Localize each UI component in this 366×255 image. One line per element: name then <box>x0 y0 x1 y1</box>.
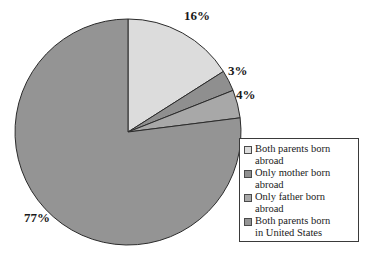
slice-label-77: 77% <box>24 210 50 226</box>
legend-item: Only mother born abroad <box>244 167 355 190</box>
legend-label: Only mother born abroad <box>255 167 330 190</box>
slice-label-3: 3% <box>228 63 248 79</box>
legend-label: Only father born abroad <box>255 191 325 214</box>
legend-label: Both parents born in United States <box>255 215 330 238</box>
legend-item: Both parents born abroad <box>244 143 355 166</box>
legend-item: Only father born abroad <box>244 191 355 214</box>
legend-swatch-both-parents-abroad <box>244 146 252 154</box>
legend-swatch-only-father-abroad <box>244 194 252 202</box>
legend-swatch-only-mother-abroad <box>244 170 252 178</box>
pie-chart-figure: 16% 3% 4% 77% Both parents born abroad O… <box>0 0 366 255</box>
legend-label: Both parents born abroad <box>255 143 330 166</box>
chart-legend: Both parents born abroad Only mother bor… <box>239 138 359 242</box>
legend-item: Both parents born in United States <box>244 215 355 238</box>
legend-swatch-both-parents-us <box>244 218 252 226</box>
slice-label-4: 4% <box>236 87 256 103</box>
slice-label-16: 16% <box>184 8 210 24</box>
